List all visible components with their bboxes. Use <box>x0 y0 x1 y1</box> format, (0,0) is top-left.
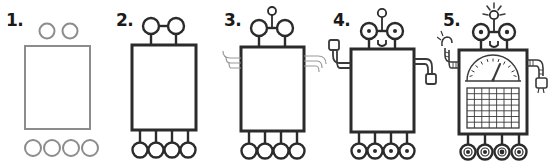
wheel-hub-4 <box>517 150 521 154</box>
antenna-bulb <box>490 11 498 19</box>
foot-2 <box>258 144 273 159</box>
foot-4 <box>181 143 196 158</box>
eye-left <box>143 18 159 34</box>
arm-right <box>414 59 436 84</box>
arm-outline-left <box>223 51 241 68</box>
foot-circle-2 <box>44 140 60 156</box>
hand-right <box>426 74 436 84</box>
eye-right <box>277 20 293 36</box>
foot-3 <box>274 144 289 159</box>
gauge-pivot <box>492 79 495 82</box>
foot-2 <box>149 143 164 158</box>
hand-left <box>329 40 339 50</box>
foot-4 <box>290 144 305 159</box>
foot-circle-4 <box>82 140 98 156</box>
foot-3 <box>165 143 180 158</box>
step-5: 5. <box>437 0 553 166</box>
wheel-hub-1 <box>357 149 361 153</box>
foot-1 <box>133 143 148 158</box>
foot-circle-1 <box>25 140 41 156</box>
step-4-drawing <box>327 0 442 166</box>
step-2: 2. <box>110 0 218 166</box>
robot-drawing-tutorial: 1. 2. <box>0 0 553 166</box>
pupil-left <box>479 30 483 34</box>
pupil-right <box>393 29 397 33</box>
step-1-drawing <box>0 0 110 166</box>
body-rectangle <box>351 49 414 132</box>
foot-1 <box>242 144 257 159</box>
plug-hand-right <box>536 78 547 88</box>
body-rectangle <box>25 46 90 129</box>
arm-right <box>527 60 547 93</box>
wheel-hub-2 <box>483 150 487 154</box>
eye-left <box>251 20 267 36</box>
step-4: 4. <box>327 0 437 166</box>
claw-fingers-left <box>437 31 443 40</box>
mouth <box>490 41 498 47</box>
antenna-bulb <box>378 9 386 17</box>
eye-circle-left <box>40 24 55 39</box>
wheel-hub-2 <box>373 149 377 153</box>
wheel-hub-1 <box>466 150 470 154</box>
step-2-drawing <box>110 0 218 166</box>
body-rectangle <box>132 45 196 130</box>
eye-right <box>168 18 184 34</box>
pupil-left <box>367 29 371 33</box>
arm-outline-right <box>304 56 326 72</box>
arm-left <box>437 31 459 68</box>
step-1: 1. <box>0 0 110 166</box>
eye-circle-right <box>63 24 78 39</box>
step-5-drawing <box>437 0 553 166</box>
wheel-hub-4 <box>405 149 409 153</box>
step-3: 3. <box>218 0 327 166</box>
mouth <box>378 40 386 46</box>
wheel-hub-3 <box>500 150 505 155</box>
body-rectangle <box>241 47 304 131</box>
claw-hand-left <box>442 37 452 46</box>
arm-left <box>329 40 351 68</box>
step-3-drawing <box>218 0 333 166</box>
pupil-right <box>505 30 509 34</box>
grid-panel <box>467 88 519 128</box>
antenna-bulb <box>268 7 276 15</box>
foot-circle-3 <box>63 140 79 156</box>
wheel-hub-3 <box>389 149 393 153</box>
